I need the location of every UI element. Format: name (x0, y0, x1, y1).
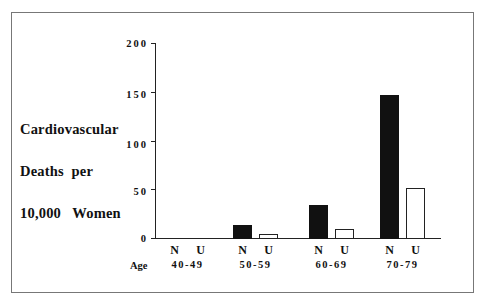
bar-N-70-79 (380, 95, 399, 239)
sub-label-U: U (335, 243, 355, 258)
bar-U-50-59 (259, 234, 278, 239)
age-group-label: 40-49 (158, 259, 218, 270)
tick-mark (151, 92, 155, 93)
age-group-label: 50-59 (226, 259, 286, 270)
bar-N-60-69 (309, 205, 328, 239)
tick-mark (151, 141, 155, 142)
sub-label-N: N (233, 243, 253, 258)
age-group-label: 60-69 (302, 259, 362, 270)
y-axis-title: Cardiovascular Deaths per 10,000 Women (20, 94, 121, 234)
tick-label-100: 100 (118, 140, 148, 150)
tick-label-50: 50 (118, 187, 148, 197)
tick-mark (151, 189, 155, 190)
y-axis-title-line-1: Cardiovascular (20, 122, 121, 136)
y-axis-line (155, 43, 156, 239)
tick-label-0: 0 (118, 234, 148, 244)
tick-mark (151, 43, 155, 44)
sub-label-U: U (191, 243, 211, 258)
tick-mark (151, 238, 155, 239)
x-axis-title: Age (130, 260, 148, 271)
sub-label-N: N (165, 243, 185, 258)
sub-label-N: N (380, 243, 400, 258)
bar-U-60-69 (335, 229, 354, 239)
sub-label-N: N (309, 243, 329, 258)
age-group-label: 70-79 (373, 259, 433, 270)
sub-label-U: U (406, 243, 426, 258)
bar-N-50-59 (233, 225, 252, 239)
sub-label-U: U (259, 243, 279, 258)
tick-label-200: 200 (118, 39, 148, 49)
y-axis-title-line-2: Deaths per (20, 164, 121, 178)
tick-label-150: 150 (118, 90, 148, 100)
bar-U-70-79 (406, 188, 425, 239)
y-axis-title-line-3: 10,000 Women (20, 206, 121, 220)
